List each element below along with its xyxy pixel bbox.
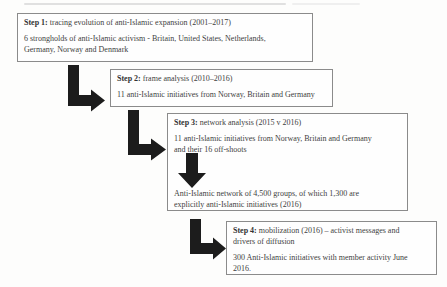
research-steps-flowchart: Step 1: tracing evolution of anti-Islami… xyxy=(0,0,447,287)
step-3-label: Step 3: xyxy=(174,118,198,127)
step-4-title-text: mobilization (2016) – activist messages … xyxy=(257,226,400,235)
elbow-arrow-icon xyxy=(188,217,230,263)
scan-artifact-line xyxy=(24,3,286,5)
step-3-title: Step 3: network analysis (2015 v 2016) xyxy=(174,117,403,128)
step-1-body-line: Germany, Norway and Denmark xyxy=(24,44,308,55)
step-1-title: Step 1: tracing evolution of anti-Islami… xyxy=(24,17,308,28)
step-1-box: Step 1: tracing evolution of anti-Islami… xyxy=(17,13,313,62)
step-3-title-text: network analysis (2015 v 2016) xyxy=(198,118,301,127)
step-2-title: Step 2: frame analysis (2010–2016) xyxy=(117,73,328,84)
step-4-title-line2: drivers of diffusion xyxy=(233,236,432,247)
step-2-body-line: 11 anti-Islamic initiatives from Norway,… xyxy=(117,89,328,100)
step-3-result-line: explicitly anti-Islamic initiatives (201… xyxy=(174,199,359,210)
step-2-box: Step 2: frame analysis (2010–2016) 11 an… xyxy=(110,69,333,107)
step-1-body: 6 strongholds of anti-Islamic activism -… xyxy=(24,33,308,55)
step-4-label: Step 4: xyxy=(233,226,257,235)
elbow-arrow-icon xyxy=(66,63,108,113)
step-4-body: 300 Anti-Islamic initiatives with member… xyxy=(233,252,432,274)
step-4-title: Step 4: mobilization (2016) – activist m… xyxy=(233,225,432,236)
step-1-label: Step 1: xyxy=(24,18,48,27)
step-3-body: 11 anti-Islamic initiatives from Norway,… xyxy=(174,133,403,155)
step-4-body-line: 300 Anti-Islamic initiatives with member… xyxy=(233,252,432,263)
step-4-title-text: drivers of diffusion xyxy=(233,236,432,247)
step-3-result: Anti-Islamic network of 4,500 groups, of… xyxy=(174,188,359,210)
scan-artifact-line xyxy=(292,3,360,5)
step-3-body-line: 11 anti-Islamic initiatives from Norway,… xyxy=(174,133,403,144)
step-4-body-line: 2016. xyxy=(233,263,432,274)
step-2-title-text: frame analysis (2010–2016) xyxy=(141,74,233,83)
step-2-label: Step 2: xyxy=(117,74,141,83)
down-arrow-icon xyxy=(176,151,208,190)
step-4-box: Step 4: mobilization (2016) – activist m… xyxy=(226,221,437,275)
step-2-body: 11 anti-Islamic initiatives from Norway,… xyxy=(117,89,328,100)
elbow-arrow-icon xyxy=(126,108,170,164)
step-3-body-line: and their 16 off-shoots xyxy=(174,144,403,155)
step-1-body-line: 6 strongholds of anti-Islamic activism -… xyxy=(24,33,308,44)
step-1-title-text: tracing evolution of anti-Islamic expans… xyxy=(48,18,231,27)
